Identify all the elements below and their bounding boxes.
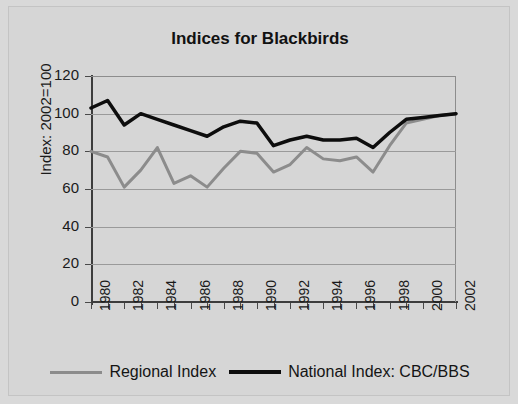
legend-label-regional: Regional Index [109, 363, 216, 381]
x-axis-tick-mark [91, 303, 92, 309]
x-axis-tick-mark [124, 303, 125, 309]
x-axis-tick-mark [157, 303, 158, 309]
y-axis-tick-label: 60 [35, 179, 79, 196]
legend-label-national: National Index: CBC/BBS [288, 363, 469, 381]
y-axis-tick-label: 40 [35, 217, 79, 234]
legend-entry-national: National Index: CBC/BBS [229, 363, 469, 381]
chart-figure: Indices for Blackbirds Index: 2002=100 0… [0, 0, 518, 404]
chart-plate: Indices for Blackbirds Index: 2002=100 0… [8, 6, 510, 396]
x-axis-tick-label: 2002 [462, 280, 478, 311]
x-axis-tick-mark [323, 303, 324, 309]
y-axis-tick-label: 120 [35, 66, 79, 83]
x-axis-tick-mark [456, 303, 457, 309]
x-axis-tick-mark [356, 303, 357, 309]
x-axis-tick-mark [224, 303, 225, 309]
series-lines [91, 76, 456, 302]
y-axis-tick-label: 80 [35, 141, 79, 158]
x-axis-tick-mark [257, 303, 258, 309]
x-axis-tick-mark [423, 303, 424, 309]
plot-area-wrapper [91, 76, 456, 302]
x-axis-tick-mark [390, 303, 391, 309]
legend-line-swatch-national [229, 370, 281, 374]
series-line [91, 100, 456, 147]
x-axis-tick-mark [191, 303, 192, 309]
chart-title: Indices for Blackbirds [9, 29, 511, 49]
y-axis-tick-label: 0 [35, 292, 79, 309]
legend-line-swatch-regional [50, 371, 102, 374]
legend-entry-regional: Regional Index [50, 363, 216, 381]
chart-legend: Regional Index National Index: CBC/BBS [9, 363, 511, 381]
x-axis-tick-mark [290, 303, 291, 309]
y-axis-tick-label: 20 [35, 254, 79, 271]
y-axis-tick-label: 100 [35, 104, 79, 121]
